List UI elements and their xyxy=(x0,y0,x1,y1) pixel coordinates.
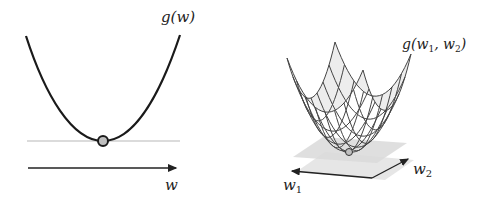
left-panel: g(w) w xyxy=(26,8,195,194)
w2-axis-label: w2 xyxy=(413,160,432,179)
right-panel: g(w1, w2) w1 w2 xyxy=(283,36,466,195)
minimum-point xyxy=(98,136,108,146)
g-w-label: g(w) xyxy=(161,8,195,26)
parabola-curve xyxy=(26,35,180,141)
paraboloid-surface xyxy=(287,42,411,152)
g-w1-w2-label: g(w1, w2) xyxy=(402,36,466,54)
w1-axis-label: w1 xyxy=(283,176,302,195)
diagram-canvas: g(w) w g(w1, w2) w1 w2 xyxy=(0,0,481,200)
surface-minimum-point xyxy=(346,149,353,156)
w-axis-label: w xyxy=(165,176,178,194)
